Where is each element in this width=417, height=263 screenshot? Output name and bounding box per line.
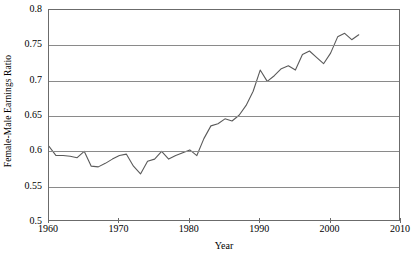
x-tick-mark bbox=[330, 218, 331, 223]
x-tick-label: 2000 bbox=[320, 223, 340, 235]
series-path bbox=[49, 33, 359, 174]
x-tick-label: 1970 bbox=[108, 223, 128, 235]
x-tick-label: 2010 bbox=[390, 223, 410, 235]
x-axis-tick-labels: 196019701980199020002010 bbox=[48, 223, 400, 239]
y-axis-title-text: Female-Male Earnings Ratio bbox=[3, 55, 13, 167]
x-tick-label: 1960 bbox=[38, 223, 58, 235]
x-tick-mark bbox=[189, 218, 190, 223]
y-tick-label: 0.55 bbox=[14, 181, 46, 191]
gridline bbox=[49, 45, 399, 46]
gridline bbox=[49, 187, 399, 188]
x-tick-label: 1990 bbox=[249, 223, 269, 235]
y-tick-label: 0.6 bbox=[14, 145, 46, 155]
x-axis-title: Year bbox=[48, 240, 400, 251]
plot-area bbox=[48, 9, 400, 221]
y-axis-tick-labels: 0.50.550.60.650.70.750.8 bbox=[14, 0, 46, 220]
chart-figure: Female-Male Earnings Ratio 0.50.550.60.6… bbox=[0, 0, 417, 263]
x-tick-mark bbox=[48, 218, 49, 223]
gridline bbox=[49, 116, 399, 117]
y-tick-label: 0.65 bbox=[14, 110, 46, 120]
x-tick-mark bbox=[400, 218, 401, 223]
gridline bbox=[49, 151, 399, 152]
y-tick-label: 0.8 bbox=[14, 4, 46, 14]
x-tick-mark bbox=[259, 218, 260, 223]
x-tick-label: 1980 bbox=[179, 223, 199, 235]
x-tick-mark bbox=[118, 218, 119, 223]
y-tick-label: 0.75 bbox=[14, 39, 46, 49]
y-tick-label: 0.7 bbox=[14, 75, 46, 85]
gridline bbox=[49, 81, 399, 82]
